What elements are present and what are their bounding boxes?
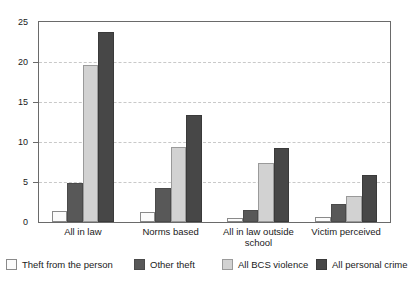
bar	[155, 188, 171, 222]
legend-label: All personal crime	[332, 259, 408, 270]
y-tick-label: 5	[23, 178, 28, 187]
y-tick-mark	[33, 62, 38, 63]
bar	[140, 212, 156, 222]
legend-swatch-icon	[6, 259, 17, 270]
legend-label: All BCS violence	[238, 259, 308, 270]
legend-item: All BCS violence	[222, 259, 308, 270]
bar	[274, 148, 290, 222]
bar	[83, 65, 99, 222]
legend-label: Theft from the person	[22, 259, 113, 270]
x-axis-label: Norms based	[121, 226, 221, 237]
bar-group	[127, 22, 215, 222]
y-tick-label: 20	[18, 58, 28, 67]
y-axis: 0510152025	[0, 21, 34, 223]
bar	[331, 204, 347, 222]
legend-swatch-icon	[222, 259, 233, 270]
x-axis-label: All in law outside school	[209, 226, 309, 248]
bar	[98, 32, 114, 222]
bar-group	[302, 22, 390, 222]
chart-legend: Theft from the personOther theftAll BCS …	[6, 259, 410, 277]
bar	[362, 175, 378, 222]
bar	[243, 210, 259, 222]
x-axis-label: All in law	[33, 226, 133, 237]
bar	[315, 217, 331, 222]
y-tick-label: 15	[18, 98, 28, 107]
x-axis-label: Victim perceived	[296, 226, 396, 237]
legend-swatch-icon	[316, 259, 327, 270]
legend-label: Other theft	[150, 259, 195, 270]
legend-item: All personal crime	[316, 259, 408, 270]
y-tick-label: 0	[23, 218, 28, 227]
y-tick-label: 25	[18, 18, 28, 27]
legend-item: Theft from the person	[6, 259, 113, 270]
y-tick-mark	[33, 102, 38, 103]
legend-item: Other theft	[134, 259, 195, 270]
bar	[52, 211, 68, 222]
bars-layer	[39, 22, 390, 222]
bar	[258, 163, 274, 222]
bar	[227, 218, 243, 222]
bar	[346, 196, 362, 222]
bar-group	[215, 22, 303, 222]
bar	[67, 183, 83, 222]
bar-chart: 0510152025 All in lawNorms basedAll in l…	[0, 0, 415, 285]
x-axis: All in lawNorms basedAll in law outside …	[39, 226, 390, 260]
bar	[171, 147, 187, 222]
bar-group	[39, 22, 127, 222]
legend-swatch-icon	[134, 259, 145, 270]
bar	[186, 115, 202, 222]
y-tick-mark	[33, 142, 38, 143]
y-tick-mark	[33, 182, 38, 183]
y-tick-label: 10	[18, 138, 28, 147]
